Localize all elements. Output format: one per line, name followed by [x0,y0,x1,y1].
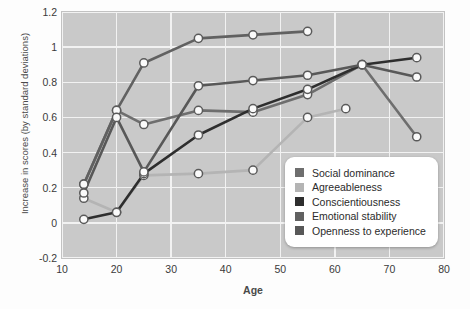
data-point-marker [80,180,88,188]
x-axis-tick-label: 60 [329,263,341,275]
data-point-marker [194,82,202,90]
data-point-marker [112,208,120,216]
data-point-marker [194,170,202,178]
legend-item[interactable]: Conscientiousness [295,196,426,208]
data-point-marker [342,105,350,113]
data-point-marker [194,106,202,114]
legend-item-label: Conscientiousness [312,196,400,208]
legend-swatch-icon [295,212,304,221]
y-axis-tick-label: 1.2 [42,6,57,18]
data-point-marker [413,73,421,81]
data-point-marker [140,59,148,67]
x-axis-tick-labels: 1020304050607080 [62,263,444,277]
legend-item[interactable]: Social dominance [295,167,426,179]
data-point-marker [413,133,421,141]
data-point-marker [303,71,311,79]
x-axis-tick-label: 80 [438,263,450,275]
data-point-marker [249,166,257,174]
x-axis-tick-label: 50 [274,263,286,275]
x-axis-tick-label: 10 [56,263,68,275]
x-axis-tick-label: 20 [111,263,123,275]
data-point-marker [80,215,88,223]
data-point-marker [249,105,257,113]
data-point-marker [194,131,202,139]
data-point-marker [249,76,257,84]
data-point-marker [140,168,148,176]
x-axis-tick-label: 70 [384,263,396,275]
data-point-marker [140,120,148,128]
legend-item-label: Social dominance [312,167,395,179]
data-point-marker [303,113,311,121]
data-point-marker [358,61,366,69]
x-axis-title: Age [62,284,444,296]
data-point-marker [303,85,311,93]
y-axis-tick-label: 0 [51,217,57,229]
x-axis-tick-label: 40 [220,263,232,275]
legend-item[interactable]: Openness to experience [295,225,426,237]
data-point-marker [80,189,88,197]
y-axis-tick-label: 0.8 [42,76,57,88]
y-axis-tick-labels: 1.210.80.60.40.20-0.2 [0,12,57,258]
y-axis-tick-label: 1 [51,41,57,53]
legend-item[interactable]: Agreeableness [295,181,426,193]
legend-item-label: Openness to experience [312,225,426,237]
data-point-marker [413,54,421,62]
y-axis-tick-label: -0.2 [39,252,57,264]
y-axis-tick-label: 0.2 [42,182,57,194]
y-axis-tick-label: 0.4 [42,147,57,159]
chart-container: Increase in scores (by standard deviatio… [0,0,470,309]
legend-item-label: Agreeableness [312,181,382,193]
legend-swatch-icon [295,183,304,192]
legend-swatch-icon [295,226,304,235]
y-axis-tick-label: 0.6 [42,111,57,123]
data-point-marker [112,113,120,121]
legend-item[interactable]: Emotional stability [295,210,426,222]
legend-item-label: Emotional stability [312,210,397,222]
legend-swatch-icon [295,197,304,206]
data-point-marker [194,34,202,42]
legend-swatch-icon [295,168,304,177]
data-point-marker [303,27,311,35]
chart-legend: Social dominanceAgreeablenessConscientio… [285,157,438,247]
data-point-marker [249,31,257,39]
x-axis-tick-label: 30 [165,263,177,275]
